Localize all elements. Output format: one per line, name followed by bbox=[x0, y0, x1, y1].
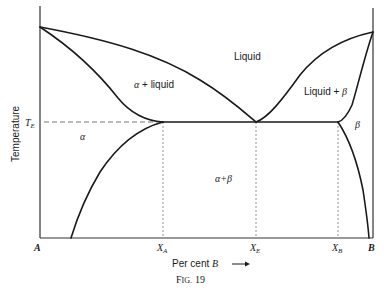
phase-diagram: Liquid α + liquid Liquid + β α β α+β Tem… bbox=[0, 0, 384, 292]
liquidus-a bbox=[40, 27, 256, 122]
caption-smallcaps: IG. bbox=[182, 276, 192, 285]
xe-sub: E bbox=[255, 247, 261, 255]
solvus-b bbox=[338, 122, 369, 238]
xlabel-var: B bbox=[212, 258, 218, 269]
beta-symbol: β bbox=[341, 86, 347, 97]
caption-number: 19 bbox=[195, 274, 205, 285]
x-axis-label: Per cent B bbox=[172, 258, 218, 269]
liquid-plus-text: Liquid + bbox=[304, 86, 342, 97]
solidus-a bbox=[40, 27, 163, 122]
xa-sub: A bbox=[162, 247, 168, 255]
figure-caption: FIG.19 bbox=[176, 274, 205, 285]
region-liquid: Liquid bbox=[234, 51, 261, 62]
region-alpha-beta: α+β bbox=[215, 173, 232, 184]
te-sub: E bbox=[30, 122, 36, 130]
component-a-label: A bbox=[33, 242, 41, 253]
region-beta: β bbox=[354, 119, 360, 130]
region-alpha: α bbox=[80, 131, 86, 142]
plus-liquid-text: + liquid bbox=[139, 79, 174, 90]
solidus-b bbox=[338, 32, 373, 122]
xlabel-text: Per cent bbox=[172, 258, 209, 269]
liquidus-b bbox=[256, 32, 373, 122]
arrow-right-icon bbox=[232, 262, 250, 267]
xb-label: XB bbox=[331, 242, 343, 255]
xe-label: XE bbox=[249, 242, 261, 255]
te-label: TE bbox=[25, 117, 36, 130]
xa-label: XA bbox=[156, 242, 168, 255]
xb-sub: B bbox=[338, 247, 343, 255]
region-liquid-beta: Liquid + β bbox=[304, 86, 347, 97]
region-alpha-liquid: α + liquid bbox=[134, 79, 174, 90]
y-axis-label: Temperature bbox=[10, 105, 21, 162]
component-b-label: B bbox=[367, 242, 375, 253]
